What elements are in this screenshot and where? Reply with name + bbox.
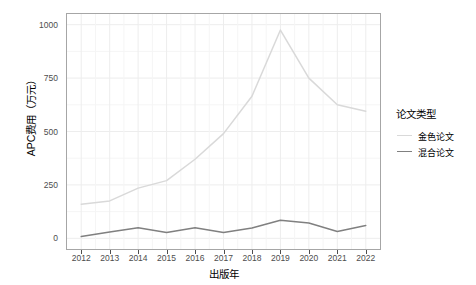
x-tick-mark <box>224 250 225 254</box>
x-tick-mark <box>110 250 111 254</box>
legend-item[interactable]: 混合论文 <box>396 144 476 160</box>
legend-item-label: 混合论文 <box>418 146 454 159</box>
legend-key-line-icon <box>396 145 413 159</box>
x-tick-mark <box>280 250 281 254</box>
legend-key-line-icon <box>396 129 413 143</box>
x-axis-title: 出版年 <box>66 266 381 281</box>
legend-title: 论文类型 <box>396 106 476 121</box>
y-tick-label: 750 <box>24 73 58 83</box>
y-axis-tick-labels: 02505007501000 <box>24 0 58 285</box>
y-tick-label: 250 <box>24 180 58 190</box>
x-tick-mark <box>81 250 82 254</box>
x-tick-mark <box>252 250 253 254</box>
legend-item-label: 金色论文 <box>418 130 454 143</box>
legend-items: 金色论文混合论文 <box>396 128 476 160</box>
y-tick-label: 0 <box>24 233 58 243</box>
x-tick-mark <box>138 250 139 254</box>
y-tick-label: 1000 <box>24 20 58 30</box>
legend-item[interactable]: 金色论文 <box>396 128 476 144</box>
x-tick-mark <box>337 250 338 254</box>
y-tick-label: 500 <box>24 127 58 137</box>
x-tick-mark <box>167 250 168 254</box>
x-tick-mark <box>366 250 367 254</box>
plot-panel <box>66 13 381 250</box>
plot-area-svg <box>67 14 380 249</box>
chart-container: APC费用（万元） 02505007501000 201220132014201… <box>0 0 476 285</box>
x-tick-mark <box>195 250 196 254</box>
x-tick-mark <box>309 250 310 254</box>
legend: 论文类型 金色论文混合论文 <box>396 106 476 160</box>
x-tick-label: 2022 <box>348 253 384 263</box>
